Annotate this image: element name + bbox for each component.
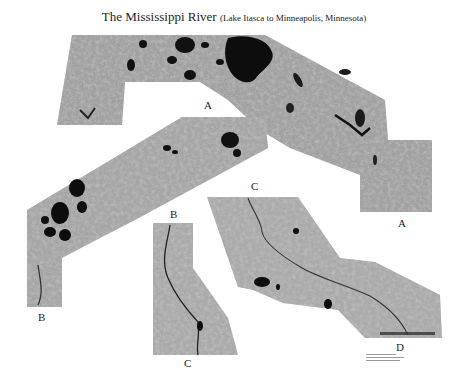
source-credit-text xyxy=(366,354,406,362)
segment-A-end-label: A xyxy=(398,217,406,229)
segment-B-end-label: B xyxy=(38,311,45,323)
segment-C-start-label: C xyxy=(251,180,258,192)
segment-B-start-label: B xyxy=(170,208,177,220)
segment-D-strip xyxy=(207,197,442,338)
segment-C-end-label: C xyxy=(184,357,191,369)
segment-A-start-label: A xyxy=(204,99,212,111)
segment-D-start-label: D xyxy=(396,341,404,353)
satellite-strip-map xyxy=(0,0,468,381)
